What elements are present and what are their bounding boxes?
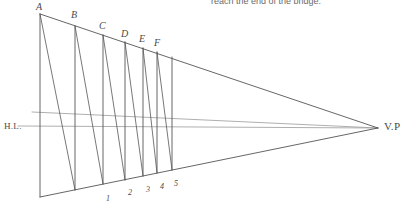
- vertical-posts: [40, 14, 172, 197]
- brace-A-B: [40, 14, 75, 190]
- vanishing-point-label: V.P: [384, 120, 400, 132]
- horizon-line: [18, 126, 378, 128]
- guide-lines: [18, 112, 378, 128]
- receding-edges: [40, 14, 378, 197]
- perspective-diagram: [0, 0, 406, 213]
- base-mark-5: 5: [174, 179, 178, 188]
- diagonal-braces: [40, 14, 172, 190]
- brace-C-D: [103, 35, 125, 180]
- base-mark-3: 3: [146, 185, 150, 194]
- upper-guide-line: [32, 112, 378, 128]
- brace-F-G: [157, 52, 172, 170]
- base-mark-4: 4: [160, 182, 164, 191]
- drawing-stage: reach the end of the bridge. ABCDEF12345…: [0, 0, 406, 213]
- post-label-d: D: [121, 28, 128, 39]
- post-label-c: C: [99, 20, 106, 31]
- post-label-e: E: [139, 33, 145, 44]
- brace-E-F: [143, 48, 157, 173]
- bottom-receding-edge: [40, 128, 378, 197]
- base-mark-2: 2: [128, 188, 132, 197]
- brace-B-C: [75, 26, 103, 184]
- post-label-a: A: [36, 1, 42, 12]
- base-mark-1: 1: [106, 194, 110, 203]
- post-label-b: B: [71, 9, 77, 20]
- top-receding-edge: [40, 14, 378, 128]
- horizon-line-label: H.L.: [4, 121, 22, 131]
- post-label-f: F: [154, 37, 160, 48]
- brace-D-E: [125, 42, 143, 176]
